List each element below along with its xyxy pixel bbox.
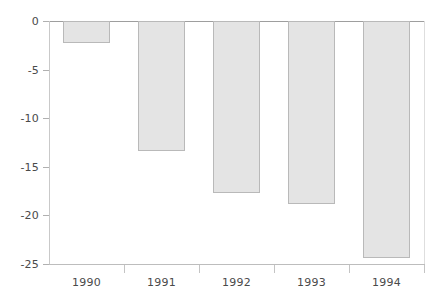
x-tick-mark [274,265,275,273]
y-tick-label-minus25: -25 [0,258,39,271]
x-tick-label-1991: 1991 [147,276,176,289]
y-tick-mark [43,215,49,216]
x-tick-label-1992: 1992 [222,276,251,289]
y-tick-mark [43,70,49,71]
y-tick-label-minus15: -15 [0,160,39,173]
x-axis-line [49,264,425,265]
plot-right-edge [424,21,425,264]
y-tick-mark [43,167,49,168]
bar-1990 [63,21,110,43]
x-tick-label-1990: 1990 [72,276,101,289]
bar-1992 [213,21,260,193]
y-tick-label-minus20: -20 [0,209,39,222]
y-axis-line [49,21,50,264]
y-tick-label-minus5: -5 [0,63,39,76]
y-tick-label-minus10: -10 [0,112,39,125]
y-tick-mark [43,118,49,119]
x-tick-mark [349,265,350,273]
x-tick-mark [199,265,200,273]
bar-chart: 0 -5 -10 -15 -20 -25 1990 1991 1992 1993… [0,0,434,296]
y-tick-label-0: 0 [0,15,39,28]
clipped-title-remnant [0,0,434,5]
x-tick-label-1994: 1994 [372,276,401,289]
y-tick-mark [43,21,49,22]
y-tick-mark [43,264,49,265]
x-tick-label-1993: 1993 [297,276,326,289]
bar-1993 [288,21,335,204]
x-tick-mark [424,265,425,273]
x-tick-mark [124,265,125,273]
bar-1994 [363,21,410,258]
bar-1991 [138,21,185,151]
